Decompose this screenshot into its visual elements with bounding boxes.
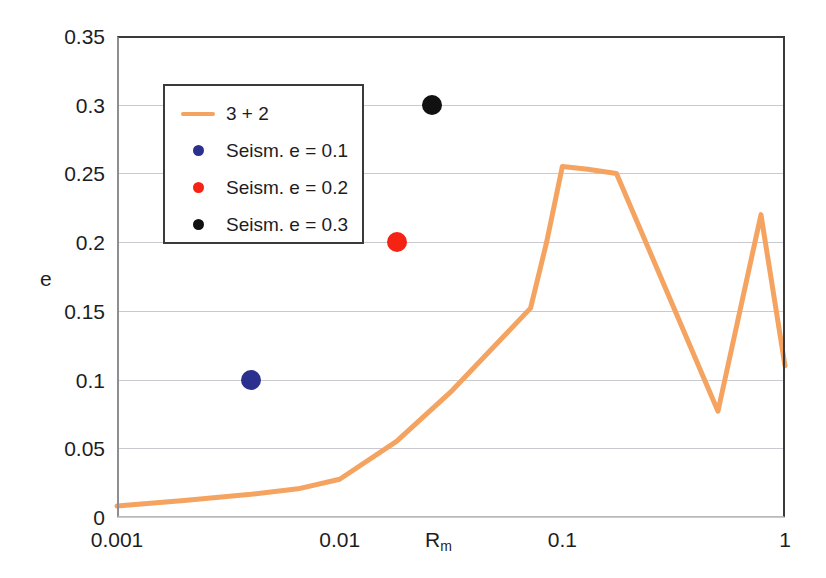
legend-dot-key (178, 219, 218, 230)
x-axis-tick-label: 0.001 (91, 529, 144, 550)
x-axis-tick-label: 0.01 (319, 529, 360, 550)
legend-dot-swatch (193, 182, 204, 193)
y-axis-tick-label: 0.15 (0, 301, 105, 322)
y-axis-tick-label: 0.05 (0, 438, 105, 459)
y-axis-tick-label: 0.3 (0, 95, 105, 116)
scatter-marker (387, 232, 407, 252)
y-axis-tick-label: 0.2 (0, 232, 105, 253)
legend-dot-key (178, 145, 218, 156)
y-axis-title: e (40, 268, 52, 289)
legend-dot-key (178, 182, 218, 193)
x-axis-title-base: R (425, 528, 440, 551)
y-axis-tick-label: 0.25 (0, 163, 105, 184)
legend-line-swatch (181, 112, 215, 116)
y-axis-tick-label: 0.35 (0, 26, 105, 47)
legend-item-label: Seism. e = 0.3 (218, 215, 348, 234)
chart-figure: 00.050.10.150.20.250.30.35 e Rm 0.0010.0… (0, 0, 826, 578)
legend-dot-swatch (193, 145, 204, 156)
x-axis-tick-label: 1 (779, 529, 791, 550)
legend-item-label: Seism. e = 0.2 (218, 178, 348, 197)
legend-item[interactable]: 3 + 2 (165, 95, 362, 132)
gridline (117, 517, 785, 518)
legend-item-label: 3 + 2 (218, 104, 269, 123)
y-axis-tick-label: 0.1 (0, 370, 105, 391)
legend-dot-swatch (193, 219, 204, 230)
x-axis-tick-label: 0.1 (548, 529, 577, 550)
scatter-marker (422, 95, 442, 115)
legend-box: 3 + 2Seism. e = 0.1Seism. e = 0.2Seism. … (163, 84, 364, 244)
legend-item[interactable]: Seism. e = 0.1 (165, 132, 362, 169)
x-axis-title: Rm (425, 529, 452, 553)
legend-item-label: Seism. e = 0.1 (218, 141, 348, 160)
scatter-marker (241, 370, 261, 390)
legend-item[interactable]: Seism. e = 0.2 (165, 169, 362, 206)
legend-item[interactable]: Seism. e = 0.3 (165, 206, 362, 243)
legend-line-key (178, 112, 218, 116)
y-axis-tick-label: 0 (0, 507, 105, 528)
x-axis-title-subscript: m (440, 538, 452, 554)
